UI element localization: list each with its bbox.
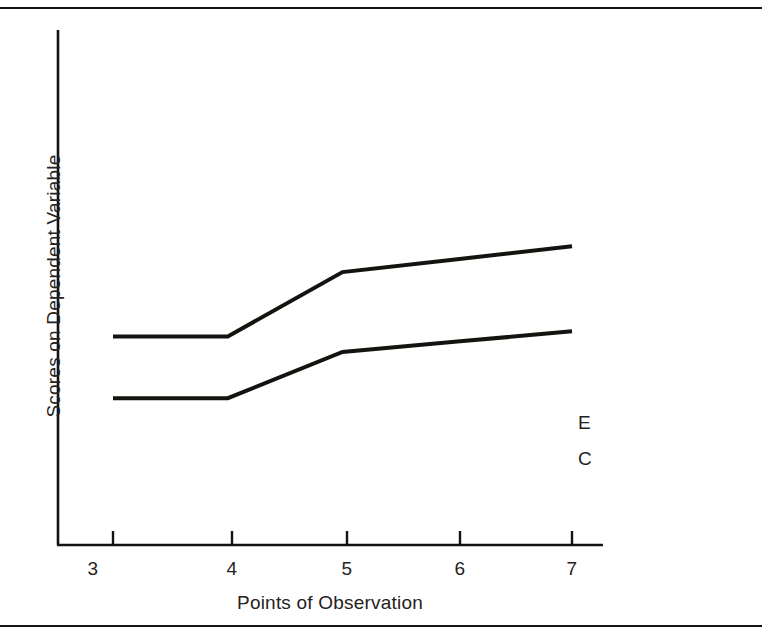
y-axis-title: Scores on Dependent Variable [43, 136, 65, 436]
x-tick-label-3: 3 [73, 558, 113, 580]
series-line-control [113, 331, 572, 398]
x-axis-title: Points of Observation [0, 592, 660, 614]
x-tick-label-6: 6 [440, 558, 480, 580]
x-tick-label-5: 5 [327, 558, 367, 580]
series-line-experimental [113, 246, 572, 336]
x-tick-label-7: 7 [552, 558, 592, 580]
x-axis-tick-marks [113, 531, 572, 545]
figure-container: 3 4 5 6 7 E C Points of Observation Scor… [0, 0, 762, 644]
line-chart-plot [0, 0, 762, 644]
series-label-experimental: E [578, 412, 608, 434]
series-label-control: C [578, 448, 608, 470]
x-tick-label-4: 4 [212, 558, 252, 580]
